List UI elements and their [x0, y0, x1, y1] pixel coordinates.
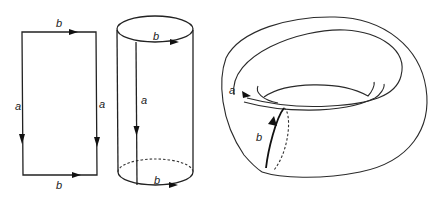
torus-outer-contour: [226, 17, 427, 177]
cyl-bottom-label: b: [154, 174, 160, 186]
bottom-edge-arrow-icon: [72, 172, 81, 178]
torus-panel: a b: [222, 17, 427, 177]
rect-top-label: b: [56, 17, 62, 29]
longitude-arrow-icon: [242, 91, 251, 98]
rect-left-label: a: [15, 100, 21, 112]
torus-meridian-front: [266, 108, 284, 168]
right-edge-arrow-icon: [94, 137, 100, 147]
rectangle-outline: [22, 32, 97, 175]
rect-bottom-label: b: [56, 179, 62, 191]
seam-arrow-icon: [134, 126, 140, 136]
torus-longitude-label: a: [229, 84, 235, 96]
top-edge-arrow-icon: [69, 29, 78, 35]
cylinder-left-side: [117, 30, 118, 172]
rect-right-label: a: [99, 98, 105, 110]
cyl-top-label: b: [153, 30, 159, 42]
torus-construction-diagram: b b a a b b a a b: [0, 0, 442, 198]
rectangle-panel: b b a a: [15, 17, 105, 191]
cylinder-bottom-back-dashed: [118, 159, 193, 172]
torus-meridian-back-dashed: [274, 108, 289, 170]
torus-meridian-label: b: [256, 131, 262, 143]
torus-inner-rim: [234, 30, 402, 107]
left-edge-arrow-icon: [19, 134, 25, 144]
meridian-arrow-icon: [268, 116, 277, 126]
cylinder-seam-line: [136, 42, 137, 185]
cylinder-panel: b b a: [117, 16, 193, 188]
torus-outer-left-contour: [222, 58, 262, 172]
cyl-seam-label: a: [141, 94, 147, 106]
torus-hole-bottom-edge: [264, 82, 374, 97]
